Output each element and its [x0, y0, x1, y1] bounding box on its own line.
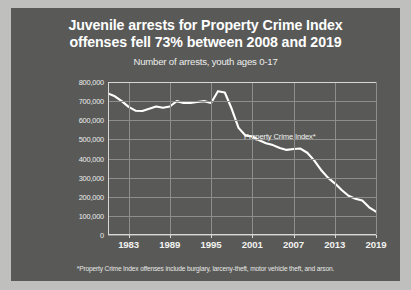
chart-footnote: *Property Crime Index offenses include b…	[11, 265, 400, 272]
x-axis-tick-mark	[211, 235, 212, 238]
y-axis-tick-label: 400,000	[14, 154, 104, 163]
series-annotation-label: Property Crime Index*	[244, 131, 316, 140]
y-axis-tick-label: 600,000	[14, 116, 104, 125]
x-axis-tick-mark	[252, 235, 253, 238]
x-axis-tick-mark	[335, 235, 336, 238]
y-axis-tick-label: 700,000	[14, 97, 104, 106]
chart-panel: Juvenile arrests for Property Crime Inde…	[11, 8, 400, 281]
plot-frame	[108, 82, 376, 235]
gridline-vertical	[376, 82, 377, 235]
y-axis-tick-label: 100,000	[14, 211, 104, 220]
y-axis-tick-label: 500,000	[14, 135, 104, 144]
chart-title-line-1: Juvenile arrests for Property Crime Inde…	[11, 17, 400, 34]
x-axis-tick-mark	[129, 235, 130, 238]
chart-subtitle: Number of arrests, youth ages 0-17	[11, 56, 400, 67]
y-axis-tick-label: 300,000	[14, 173, 104, 182]
x-axis-tick-mark	[170, 235, 171, 238]
chart-title: Juvenile arrests for Property Crime Inde…	[11, 17, 400, 51]
x-axis-tick-mark	[376, 235, 377, 238]
y-axis-tick-label: 0	[14, 231, 104, 240]
y-axis-tick-label: 200,000	[14, 192, 104, 201]
plot-area: 800,000700,000600,000500,000400,000300,0…	[108, 82, 376, 235]
x-axis-tick-mark	[294, 235, 295, 238]
y-axis-tick-label: 800,000	[14, 78, 104, 87]
x-axis-line	[108, 234, 376, 235]
gridline-horizontal	[108, 235, 376, 236]
chart-title-line-2: offenses fell 73% between 2008 and 2019	[11, 34, 400, 51]
x-axis-tick-label: 2019	[346, 239, 400, 250]
